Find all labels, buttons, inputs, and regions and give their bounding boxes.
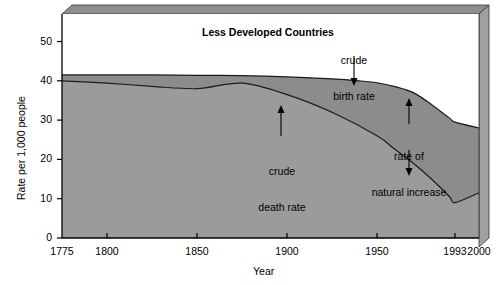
- y-axis-title: Rate per 1,000 people: [16, 96, 27, 200]
- y-tick-label: 0: [26, 232, 52, 243]
- annotation-rate-of-natural-increase-line-2: natural increase: [356, 186, 462, 198]
- annotation-crude-death-rate-line-1: crude: [252, 165, 312, 177]
- y-axis-ticks: [57, 42, 62, 238]
- x-tick-label: 1775: [42, 246, 82, 257]
- x-tick-label: 1850: [177, 246, 217, 257]
- annotation-rate-of-natural-increase: rate of natural increase: [356, 126, 462, 222]
- y-tick-label: 50: [26, 36, 52, 47]
- y-tick-label: 10: [26, 193, 52, 204]
- chart-figure: Less Developed Countries Rate per 1,000 …: [0, 0, 504, 285]
- annotation-crude-death-rate-line-2: death rate: [252, 201, 312, 213]
- annotation-crude-birth-rate: crude birth rate: [328, 30, 380, 126]
- y-tick-label: 30: [26, 114, 52, 125]
- x-tick-label: 1900: [267, 246, 307, 257]
- frame-top-slab: [62, 5, 489, 14]
- annotation-crude-birth-rate-line-2: birth rate: [328, 90, 380, 102]
- x-tick-label: 2000: [459, 246, 499, 257]
- annotation-crude-birth-rate-line-1: crude: [328, 54, 380, 66]
- annotation-crude-death-rate: crude death rate: [252, 141, 312, 237]
- x-axis-title: Year: [253, 266, 274, 277]
- y-tick-label: 20: [26, 153, 52, 164]
- x-tick-label: 1950: [357, 246, 397, 257]
- y-tick-label: 40: [26, 75, 52, 86]
- annotation-rate-of-natural-increase-line-1: rate of: [356, 150, 462, 162]
- chart-title: Less Developed Countries: [202, 27, 334, 38]
- frame-right-slab: [479, 5, 489, 247]
- x-tick-label: 1800: [87, 246, 127, 257]
